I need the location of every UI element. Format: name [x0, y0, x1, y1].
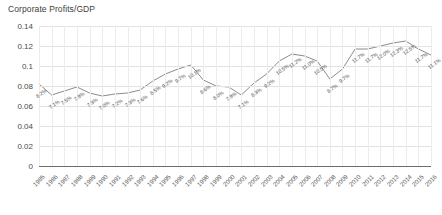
- x-axis-line: [39, 166, 431, 167]
- x-axis-tick-labels: 1985198619871988198919901991199219931994…: [39, 169, 431, 213]
- gridline-vertical: [418, 26, 419, 166]
- gridline-vertical: [178, 26, 179, 166]
- gridline-horizontal: [39, 26, 431, 27]
- y-axis-tick-label: 0.1: [0, 62, 33, 71]
- x-axis-tick-label: 2016: [422, 173, 438, 189]
- y-axis-tick-label: 0.08: [0, 82, 33, 91]
- y-axis-tick-label: 0.12: [0, 42, 33, 51]
- gridline-vertical: [115, 26, 116, 166]
- gridline-vertical: [380, 26, 381, 166]
- x-axis-tick-label: 2001: [232, 173, 248, 189]
- gridline-vertical: [153, 26, 154, 166]
- gridline-vertical: [52, 26, 53, 166]
- gridline-vertical: [342, 26, 343, 166]
- gridline-vertical: [90, 26, 91, 166]
- x-axis-tick-label: 1996: [169, 173, 185, 189]
- y-axis-tick-label: 0.02: [0, 142, 33, 151]
- x-axis-tick-label: 2005: [283, 173, 299, 189]
- gridline-vertical: [330, 26, 331, 166]
- chart-title: Corporate Profits/GDP: [8, 4, 95, 14]
- gridline-vertical: [279, 26, 280, 166]
- gridline-vertical: [191, 26, 192, 166]
- gridline-vertical: [317, 26, 318, 166]
- gridline-horizontal: [39, 146, 431, 147]
- gridline-vertical: [128, 26, 129, 166]
- gridline-vertical: [368, 26, 369, 166]
- gridline-vertical: [393, 26, 394, 166]
- x-axis-tick-label: 1999: [207, 173, 223, 189]
- gridline-horizontal: [39, 66, 431, 67]
- x-axis-tick-label: 2015: [409, 173, 425, 189]
- gridline-vertical: [267, 26, 268, 166]
- gridline-vertical: [102, 26, 103, 166]
- gridline-vertical: [431, 26, 432, 166]
- gridline-horizontal: [39, 86, 431, 87]
- y-axis-tick-label: 0.06: [0, 102, 33, 111]
- x-axis-tick-label: 1998: [194, 173, 210, 189]
- gridline-horizontal: [39, 46, 431, 47]
- x-axis-tick-label: 1988: [68, 173, 84, 189]
- plot-area: 8.2%7.1%7.5%7.9%7.3%7.0%7.2%7.3%7.6%8.5%…: [39, 26, 431, 166]
- y-axis-tick-label: 0.04: [0, 122, 33, 131]
- gridline-vertical: [241, 26, 242, 166]
- x-axis-tick-label: 1991: [106, 173, 122, 189]
- y-axis-tick-label: 0.14: [0, 22, 33, 31]
- gridline-horizontal: [39, 126, 431, 127]
- gridline-vertical: [292, 26, 293, 166]
- gridline-vertical: [355, 26, 356, 166]
- x-axis-tick-label: 1985: [30, 173, 46, 189]
- x-axis-tick-label: 2013: [384, 173, 400, 189]
- y-axis-tick-label: 0: [0, 162, 33, 171]
- gridline-vertical: [203, 26, 204, 166]
- gridline-vertical: [165, 26, 166, 166]
- gridline-vertical: [305, 26, 306, 166]
- x-axis-tick-label: 2002: [245, 173, 261, 189]
- x-axis-tick-label: 2010: [346, 173, 362, 189]
